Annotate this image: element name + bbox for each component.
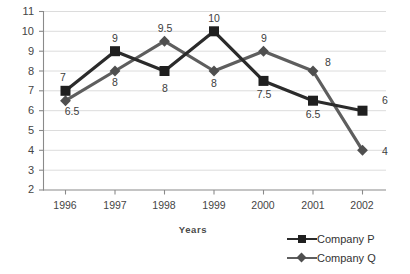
marker-p-2000 bbox=[259, 76, 269, 86]
marker-p-2001 bbox=[308, 96, 318, 106]
x-axis-label-1997: 1997 bbox=[92, 200, 138, 211]
y-axis-label-8: 8 bbox=[8, 66, 34, 77]
y-axis-label-3: 3 bbox=[8, 165, 34, 176]
legend-item-company-q[interactable]: Company Q bbox=[287, 248, 407, 267]
data-label-q-2000: 9 bbox=[249, 33, 279, 44]
data-label-p-2001: 6.5 bbox=[298, 109, 328, 120]
y-axis-label-7: 7 bbox=[8, 85, 34, 96]
data-label-q-1997: 8 bbox=[100, 77, 130, 88]
data-label-p-2002: 6 bbox=[370, 95, 400, 106]
marker-p-1998 bbox=[160, 66, 170, 76]
data-label-q-2002: 4 bbox=[370, 146, 400, 157]
chart-legend: Company P Company Q bbox=[287, 229, 407, 267]
y-axis-label-2: 2 bbox=[8, 184, 34, 195]
x-axis-label-2001: 2001 bbox=[290, 200, 336, 211]
series-markers-company-q bbox=[60, 36, 368, 156]
data-label-q-2001: 8 bbox=[313, 57, 343, 68]
y-axis bbox=[39, 11, 44, 191]
data-label-p-1999: 10 bbox=[199, 13, 229, 24]
data-label-p-2000: 7.5 bbox=[249, 89, 279, 100]
y-axis-label-9: 9 bbox=[8, 46, 34, 57]
data-label-p-1996: 7 bbox=[48, 72, 78, 83]
y-axis-label-6: 6 bbox=[8, 105, 34, 116]
data-label-q-1998: 9.5 bbox=[150, 23, 180, 34]
y-axis-label-4: 4 bbox=[8, 145, 34, 156]
legend-item-company-p[interactable]: Company P bbox=[287, 229, 407, 248]
y-axis-label-11: 11 bbox=[8, 6, 34, 17]
legend-label-company-p: Company P bbox=[317, 233, 374, 245]
x-axis-label-1999: 1999 bbox=[191, 200, 237, 211]
y-axis-label-5: 5 bbox=[8, 125, 34, 136]
x-axis-label-2002: 2002 bbox=[339, 200, 385, 211]
x-axis bbox=[43, 190, 386, 195]
data-label-p-1998: 8 bbox=[150, 83, 180, 94]
x-axis-label-1996: 1996 bbox=[42, 200, 88, 211]
data-label-q-1999: 8 bbox=[199, 78, 229, 89]
legend-marker-square-icon bbox=[287, 232, 317, 246]
marker-p-2002 bbox=[358, 106, 368, 116]
marker-p-1996 bbox=[61, 86, 71, 96]
marker-p-1997 bbox=[110, 46, 120, 56]
legend-label-company-q: Company Q bbox=[317, 252, 376, 264]
data-label-p-1997: 9 bbox=[100, 33, 130, 44]
x-axis-label-2000: 2000 bbox=[240, 200, 286, 211]
data-label-q-1996: 6.5 bbox=[57, 106, 87, 117]
marker-p-1999 bbox=[209, 26, 219, 36]
line-chart: 11 10 9 8 7 6 5 4 3 2 1996 1997 1998 199… bbox=[0, 0, 410, 274]
x-axis-title: Years bbox=[153, 224, 233, 235]
y-axis-label-10: 10 bbox=[8, 26, 34, 37]
x-axis-label-1998: 1998 bbox=[141, 200, 187, 211]
legend-marker-diamond-icon bbox=[287, 251, 317, 265]
marker-q-2000 bbox=[258, 46, 269, 57]
